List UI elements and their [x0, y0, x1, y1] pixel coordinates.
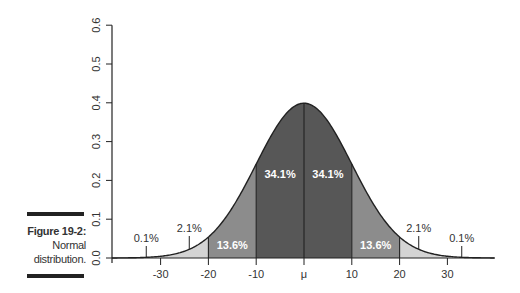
y-tick-label: 0.6 [90, 18, 102, 33]
y-tick-label: 0.0 [90, 250, 102, 265]
x-tick-label: μ [301, 268, 307, 280]
y-tick-label: 0.2 [90, 173, 102, 188]
x-tick-label: -20 [200, 268, 216, 280]
region-4 [304, 103, 352, 258]
region-percent-label: 34.1% [264, 168, 295, 180]
region-percent-label: 13.6% [360, 239, 391, 251]
region-percent-label: 13.6% [217, 239, 248, 251]
y-ticks: 0.00.10.20.30.40.50.6 [90, 18, 112, 266]
x-tick-label: 10 [346, 268, 358, 280]
normal-distribution-chart: 0.00.10.20.30.40.50.6 -30-20-10μ102030 0… [0, 0, 520, 293]
x-tick-label: 30 [441, 268, 453, 280]
callout-percent-label: 2.1% [406, 222, 431, 234]
y-tick-label: 0.4 [90, 95, 102, 110]
x-tick-label: -30 [153, 268, 169, 280]
callout-percent-label: 2.1% [177, 222, 202, 234]
x-tick-label: -10 [248, 268, 264, 280]
region-3 [256, 103, 304, 258]
x-tick-label: 20 [393, 268, 405, 280]
callout-percent-label: 0.1% [134, 232, 159, 244]
y-tick-label: 0.1 [90, 212, 102, 227]
y-tick-label: 0.5 [90, 56, 102, 71]
x-ticks: -30-20-10μ102030 [153, 258, 454, 280]
callout-percent-label: 0.1% [449, 232, 474, 244]
y-tick-label: 0.3 [90, 134, 102, 149]
region-percent-label: 34.1% [312, 168, 343, 180]
